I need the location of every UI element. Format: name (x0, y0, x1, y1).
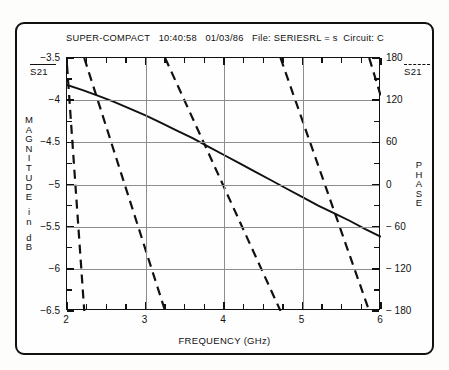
x-tick-top (66, 58, 67, 65)
header-circuit: Circuit: C (343, 33, 384, 43)
y2-axis-tick-label: 60 (386, 136, 426, 147)
y-axis-tick-label: −4 (28, 94, 60, 105)
x-minor-tick-top (321, 58, 322, 63)
x-tick-top (145, 58, 146, 65)
header-program: SUPER-COMPACT (66, 33, 150, 43)
y2-minor-tick (374, 205, 379, 206)
x-minor-tick-bottom (204, 304, 205, 309)
y-minor-tick-left (67, 121, 72, 122)
plot-area (66, 57, 380, 310)
gridline-vertical (303, 58, 304, 309)
x-tick-top (380, 58, 381, 65)
y-tick-left (67, 226, 74, 227)
gridline-vertical (146, 58, 147, 309)
y-axis-tick-label: −3.5 (28, 52, 60, 63)
x-minor-tick-top (263, 58, 264, 63)
x-minor-tick-top (341, 58, 342, 63)
legend-phase-s21: S21 (404, 64, 430, 77)
x-minor-tick-bottom (282, 304, 283, 309)
y-tick-left (67, 310, 74, 311)
y2-axis-tick-label: 0 (386, 178, 426, 189)
x-minor-tick-top (243, 58, 244, 63)
y2-minor-tick (374, 289, 379, 290)
y2-axis-tick-label: 120 (386, 94, 426, 105)
y-tick-right (372, 142, 379, 143)
x-tick-bottom (380, 302, 381, 309)
y-tick-left (67, 57, 74, 58)
y2-minor-tick (374, 163, 379, 164)
y-tick-right (372, 268, 379, 269)
header-time: 10:40:58 (159, 33, 197, 43)
x-minor-tick-top (184, 58, 185, 63)
x-axis-tick-label: 5 (299, 314, 305, 325)
y2-axis-tick-label: − 120 (386, 262, 426, 273)
y-axis-tick-label: −6 (28, 262, 60, 273)
plot-header: SUPER-COMPACT 10:40:58 01/03/86 File: SE… (66, 33, 386, 43)
x-tick-bottom (302, 302, 303, 309)
x-minor-tick-bottom (184, 304, 185, 309)
gridline-horizontal (67, 269, 379, 270)
y-tick-right (372, 99, 379, 100)
y-tick-right (372, 184, 379, 185)
y-minor-tick-left (67, 78, 72, 79)
legend-phase-label: S21 (404, 66, 422, 77)
x-tick-top (302, 58, 303, 65)
y-tick-right (372, 310, 379, 311)
x-tick-top (223, 58, 224, 65)
x-tick-bottom (223, 302, 224, 309)
x-axis-tick-label: 6 (377, 314, 383, 325)
x-minor-tick-bottom (243, 304, 244, 309)
x-minor-tick-top (125, 58, 126, 63)
y2-minor-tick (374, 247, 379, 248)
x-minor-tick-top (282, 58, 283, 63)
gridline-horizontal (67, 142, 379, 143)
legend-solid-line-icon (30, 64, 56, 65)
y-axis-tick-label: −4.5 (28, 136, 60, 147)
y-axis-tick-label: −5.5 (28, 220, 60, 231)
x-axis-tick-label: 4 (220, 314, 226, 325)
x-axis-tick-label: 2 (63, 314, 69, 325)
gridline-vertical (224, 58, 225, 309)
legend-magnitude-s21: S21 (30, 64, 56, 77)
y-minor-tick-left (67, 289, 72, 290)
y-axis-tick-label: −5 (28, 178, 60, 189)
x-minor-tick-bottom (164, 304, 165, 309)
y-minor-tick-left (67, 247, 72, 248)
x-minor-tick-top (164, 58, 165, 63)
x-axis-title: FREQUENCY (GHz) (0, 335, 449, 346)
y-minor-tick-left (67, 205, 72, 206)
x-tick-bottom (66, 302, 67, 309)
x-axis-tick-label: 3 (142, 314, 148, 325)
y2-minor-tick (374, 121, 379, 122)
gridline-horizontal (67, 227, 379, 228)
x-minor-tick-top (86, 58, 87, 63)
header-date: 01/03/86 (205, 33, 243, 43)
y2-axis-tick-label: − 60 (386, 220, 426, 231)
phase-segment (369, 58, 381, 97)
x-minor-tick-bottom (361, 304, 362, 309)
y-tick-left (67, 99, 74, 100)
x-minor-tick-top (204, 58, 205, 63)
y-axis-tick-label: −6.5 (28, 305, 60, 316)
y-tick-left (67, 184, 74, 185)
gridline-horizontal (67, 100, 379, 101)
legend-magnitude-label: S21 (30, 66, 48, 77)
y-tick-left (67, 268, 74, 269)
gridline-horizontal (67, 185, 379, 186)
x-minor-tick-top (106, 58, 107, 63)
x-minor-tick-bottom (86, 304, 87, 309)
y2-minor-tick (374, 78, 379, 79)
x-tick-bottom (145, 302, 146, 309)
x-minor-tick-top (361, 58, 362, 63)
y-tick-right (372, 226, 379, 227)
x-minor-tick-bottom (321, 304, 322, 309)
phase-segment (67, 65, 84, 311)
y2-axis-tick-label: − 180 (386, 305, 426, 316)
x-minor-tick-bottom (263, 304, 264, 309)
x-minor-tick-bottom (341, 304, 342, 309)
header-file: File: SERIESRL = s (252, 33, 338, 43)
screenshot-canvas: SUPER-COMPACT 10:40:58 01/03/86 File: SE… (0, 0, 449, 370)
x-minor-tick-bottom (125, 304, 126, 309)
y-tick-right (372, 57, 379, 58)
legend-dashed-line-icon (404, 64, 430, 65)
